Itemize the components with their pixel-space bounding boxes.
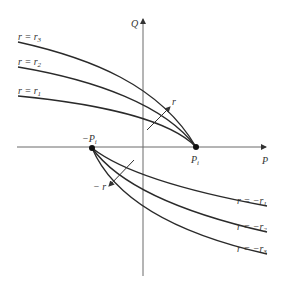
decreasing-r-label: − r (93, 181, 106, 192)
decreasing-r-arrow: − r (93, 160, 134, 192)
label-r3: r = r3 (18, 31, 42, 44)
label-neg-r1: r = −r1 (237, 195, 267, 208)
increasing-r-label: r (172, 96, 176, 107)
upper-curves (18, 42, 196, 147)
curve-neg-r2 (92, 148, 267, 232)
p-axis-label: P (261, 155, 268, 166)
label-neg-r3: r = −r3 (237, 243, 267, 256)
label-neg-r2: r = −r2 (237, 221, 267, 234)
label-p-i: Pi (190, 154, 199, 167)
curve-r3 (18, 42, 196, 147)
label-neg-p-i: −Pi (82, 133, 97, 146)
point-p-i (193, 144, 199, 150)
q-axis-label: Q (131, 18, 139, 29)
circle-diagram: Q P r = r3 r = r2 r = r1 r r = −r1 r = −… (0, 0, 283, 285)
